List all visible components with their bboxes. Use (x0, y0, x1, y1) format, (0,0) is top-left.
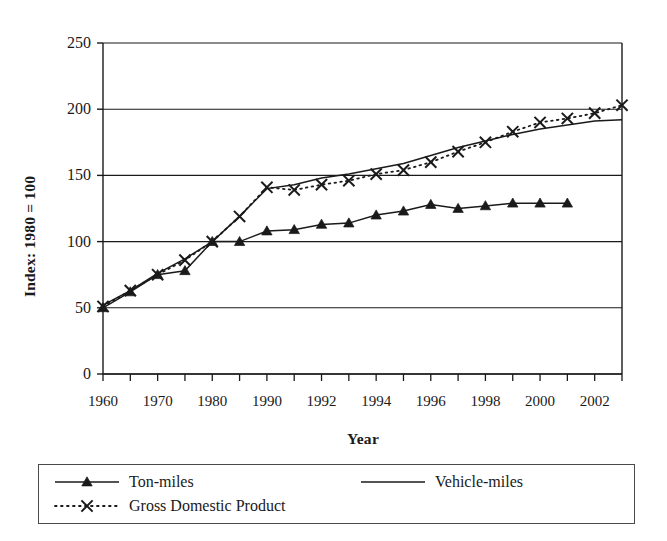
series-gross-domestic-product (97, 100, 627, 312)
chart-figure: Index: 1980 = 100 Year 05010015020025019… (0, 0, 667, 541)
x-tick-label: 2002 (571, 394, 619, 409)
x-tick-label: 1998 (461, 394, 509, 409)
y-tick-label: 250 (45, 35, 91, 51)
chart-plot-area: Index: 1980 = 100 Year 05010015020025019… (0, 18, 667, 443)
legend-swatch (359, 472, 427, 492)
x-tick-label: 1992 (298, 394, 346, 409)
x-tick-label: 1996 (407, 394, 455, 409)
y-tick-label: 100 (45, 234, 91, 250)
x-tick-label: 1960 (79, 394, 127, 409)
clipped-caption-text (14, 0, 654, 3)
legend-key-solid-plain (359, 472, 427, 492)
y-tick-label: 50 (45, 300, 91, 316)
y-tick-label: 150 (45, 167, 91, 183)
legend-label: Vehicle-miles (435, 472, 523, 492)
legend-entry: Vehicle-miles (359, 471, 523, 493)
series-ton-miles (98, 198, 573, 312)
x-tick-label: 1994 (352, 394, 400, 409)
legend-label: Ton-miles (129, 472, 194, 492)
y-tick-label: 200 (45, 101, 91, 117)
legend-key-dotted-cross (53, 496, 121, 516)
x-tick-label: 1970 (134, 394, 182, 409)
x-tick-label: 1980 (188, 394, 236, 409)
chart-canvas (0, 18, 667, 443)
series-line (103, 203, 567, 308)
legend-swatch (53, 472, 121, 492)
chart-legend: Ton-milesVehicle-milesGross Domestic Pro… (38, 464, 635, 524)
triangle-up-marker (426, 199, 436, 208)
x-tick-label: 2000 (516, 394, 564, 409)
legend-entry: Ton-miles (53, 471, 194, 493)
legend-key-solid-triangle (53, 472, 121, 492)
series-line (103, 120, 622, 305)
legend-entry: Gross Domestic Product (53, 495, 285, 517)
series-vehicle-miles (103, 120, 622, 305)
y-tick-label: 0 (45, 366, 91, 382)
x-tick-label: 1990 (243, 394, 291, 409)
legend-label: Gross Domestic Product (129, 496, 285, 516)
x-axis-title: Year (103, 430, 623, 448)
legend-swatch (53, 496, 121, 516)
